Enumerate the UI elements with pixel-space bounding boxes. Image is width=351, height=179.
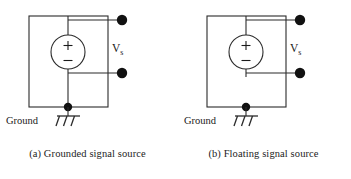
ground-label: Ground: [6, 115, 39, 126]
output-terminal-negative: [117, 68, 127, 78]
output-terminal-negative: [295, 68, 305, 78]
chassis-ground-icon: [234, 116, 258, 126]
output-terminal-positive: [117, 15, 127, 25]
source-voltage-label: Vs: [112, 42, 123, 57]
source-voltage-label-subscript: s: [120, 48, 123, 57]
output-terminal-positive: [295, 15, 305, 25]
source-voltage-label: Vs: [290, 42, 301, 57]
caption-panel-a: (a) Grounded signal source: [0, 148, 175, 159]
figure-signal-sources: Ground Vs (a) Grounded signal source: [0, 0, 351, 179]
source-voltage-label-subscript: s: [298, 48, 301, 57]
circuit-diagram-grounded: Ground Vs: [0, 0, 175, 145]
chassis-ground-icon: [56, 116, 80, 126]
panel-grounded-signal-source: Ground Vs (a) Grounded signal source: [0, 0, 175, 179]
panel-floating-signal-source: Ground Vs (b) Floating signal source: [176, 0, 351, 179]
ground-label: Ground: [184, 115, 217, 126]
voltage-source-symbol: [51, 35, 85, 69]
circuit-diagram-floating: Ground Vs: [176, 0, 351, 145]
voltage-source-symbol: [229, 35, 263, 69]
caption-panel-b: (b) Floating signal source: [176, 148, 351, 159]
